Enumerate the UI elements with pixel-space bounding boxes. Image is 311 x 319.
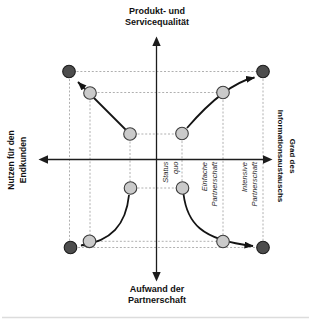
zone-label-einfache-partnerschaft-line-1: Einfache [200, 162, 209, 191]
axis-title-bottom-line-1: Aufwand der [130, 284, 185, 294]
node-stage-bottom-left [83, 235, 96, 248]
node-stage-top-right [217, 86, 230, 99]
axis-title-right-line-2: Informationsaustauschs [276, 110, 285, 203]
zone-label-einfache-partnerschaft-line-2: Partnerschaft [210, 161, 219, 207]
node-endpoint-top-right [257, 65, 270, 78]
axis-title-right-line-1: Grad des [288, 139, 297, 174]
zone-label-status-quo-line-2: quo [171, 162, 180, 175]
path-arrow-top-right [187, 78, 255, 129]
axis-arrow-left-icon [39, 155, 49, 163]
zone-label-status-quo-line-1: Status [161, 161, 170, 183]
node-start-top-right [176, 127, 189, 140]
node-start-top-left [124, 128, 137, 141]
node-start-bottom-left [124, 182, 137, 195]
diagram-canvas: Produkt- und Servicequalität Aufwand der… [0, 0, 311, 319]
node-endpoint-bottom-left [64, 241, 77, 254]
node-stage-top-left [84, 87, 97, 100]
node-stage-bottom-right [217, 235, 230, 248]
axis-title-top-line-2: Servicequalität [125, 17, 189, 27]
axis-titles: Produkt- und Servicequalität Aufwand der… [6, 6, 298, 305]
node-endpoint-bottom-right [257, 241, 270, 254]
node-start-bottom-right [176, 182, 189, 195]
axis-title-top-line-1: Produkt- und [129, 6, 185, 16]
axis-arrow-up-icon [152, 37, 160, 47]
axis-arrow-right-icon [263, 155, 273, 163]
axis-arrow-down-icon [152, 272, 160, 282]
axis-title-left-line-1: Nutzen für den [6, 130, 16, 190]
zone-labels: Status quo Einfache Partnerschaft Intens… [161, 161, 260, 207]
axis-title-bottom-line-2: Partnerschaft [128, 295, 186, 305]
axis-title-left-line-2: Endkunden [18, 137, 28, 183]
node-endpoint-top-left [63, 65, 76, 78]
zone-label-intensive-partnerschaft-line-2: Partnerschaft [250, 161, 259, 207]
zone-label-intensive-partnerschaft-line-1: Intensive [240, 162, 249, 192]
partnership-development-diagram: Produkt- und Servicequalität Aufwand der… [0, 0, 311, 319]
